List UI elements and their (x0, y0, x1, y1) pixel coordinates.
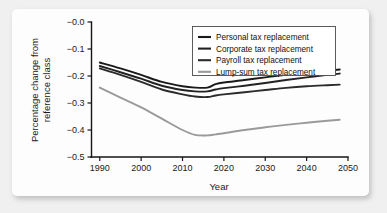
y-tick-label: −0.4 (67, 125, 85, 135)
chart-legend: Personal tax replacementCorporate tax re… (193, 27, 336, 77)
y-tick-label: −0.1 (67, 44, 85, 54)
x-tick-label: 2040 (297, 163, 317, 173)
y-axis-title-line2: reference class (41, 58, 52, 123)
x-tick-layer: 1990200020102020203020402050 (90, 157, 358, 173)
x-tick-label: 2050 (338, 163, 358, 173)
x-axis-title-text: Year (209, 181, 228, 192)
line-chart: −0.0−0.1−0.2−0.3−0.4−0.5 199020002010202… (0, 0, 387, 213)
y-tick-label: −0.5 (67, 152, 85, 162)
y-axis-title-line1: Percentage change from (29, 38, 40, 142)
y-tick-label: −0.0 (67, 17, 85, 27)
y-tick-label: −0.2 (67, 71, 85, 81)
x-tick-label: 1990 (90, 163, 110, 173)
x-axis-title: Year (209, 181, 228, 192)
legend-label: Personal tax replacement (216, 33, 310, 42)
x-tick-label: 2010 (173, 163, 193, 173)
x-tick-label: 2030 (255, 163, 275, 173)
legend-label: Lump-sum tax replacement (216, 68, 316, 77)
y-tick-layer: −0.0−0.1−0.2−0.3−0.4−0.5 (67, 17, 92, 162)
legend-label: Corporate tax replacement (216, 45, 314, 54)
y-axis-title: Percentage change from reference class (29, 38, 52, 142)
legend-label: Payroll tax replacement (216, 56, 302, 65)
y-tick-label: −0.3 (67, 98, 85, 108)
x-tick-label: 2000 (131, 163, 151, 173)
x-tick-label: 2020 (214, 163, 234, 173)
figure-root: −0.0−0.1−0.2−0.3−0.4−0.5 199020002010202… (0, 0, 387, 213)
